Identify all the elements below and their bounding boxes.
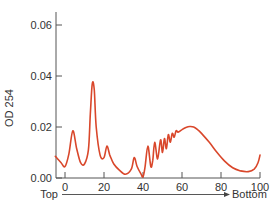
x-tick-label: 60 xyxy=(176,181,188,193)
x-tick-label: 20 xyxy=(98,181,110,193)
od254-curve xyxy=(55,82,260,177)
y-tick-label: 0.06 xyxy=(31,19,52,31)
direction-end-label: Bottom xyxy=(232,188,267,200)
direction-start-label: Top xyxy=(40,188,58,200)
od254-line-chart: 0.000.020.040.06 020406080100 OD 254 Top… xyxy=(0,0,280,219)
plot-area xyxy=(55,82,260,177)
x-tick-label: 0 xyxy=(62,181,68,193)
y-tick-label: 0.00 xyxy=(31,172,52,184)
y-tick-label: 0.04 xyxy=(31,70,52,82)
x-tick-label: 80 xyxy=(215,181,227,193)
y-axis-title: OD 254 xyxy=(3,89,15,127)
y-tick-label: 0.02 xyxy=(31,121,52,133)
x-tick-label: 40 xyxy=(137,181,149,193)
